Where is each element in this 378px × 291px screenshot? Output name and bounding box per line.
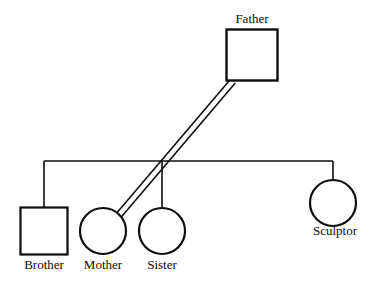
node-brother-square[interactable] [21, 208, 68, 255]
node-label-father: Father [235, 12, 268, 26]
node-label-sculptor: Sculptor [313, 224, 357, 238]
node-father-square[interactable] [227, 30, 278, 81]
node-sculptor-circle[interactable] [310, 180, 356, 226]
node-label-sister: Sister [147, 258, 177, 272]
relationship-double-line [117, 79, 236, 217]
node-mother-circle[interactable] [80, 208, 126, 254]
node-label-brother: Brother [24, 258, 64, 272]
node-sister-circle[interactable] [139, 208, 185, 254]
genogram-diagram: Father Brother Mother Sister Sculptor [0, 0, 378, 291]
genogram-canvas [0, 0, 378, 291]
node-label-mother: Mother [84, 258, 122, 272]
